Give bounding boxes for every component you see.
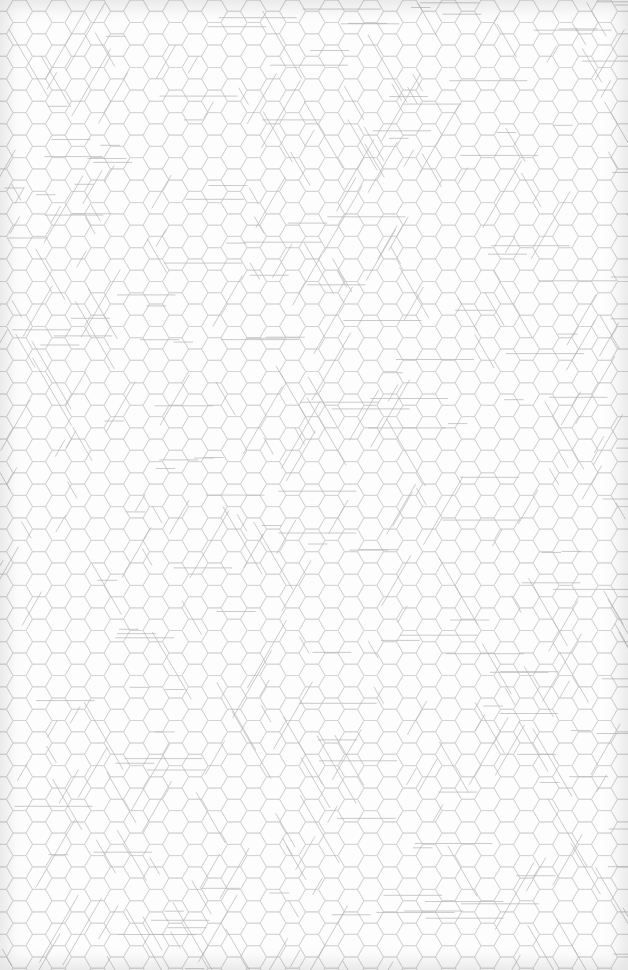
hex-grid-paper — [0, 0, 628, 970]
hexagon-grid-pattern — [0, 0, 628, 970]
